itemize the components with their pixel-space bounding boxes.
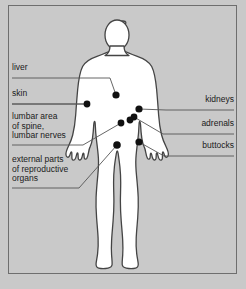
label-lumbar: lumbar area of spine, lumbar nerves <box>12 112 66 141</box>
label-liver: liver <box>12 63 28 73</box>
diagram-page: liver skin lumbar area of spine, lumbar … <box>0 0 246 289</box>
label-buttocks: buttocks <box>202 141 234 151</box>
liver-dot <box>112 91 119 98</box>
label-adrenals: adrenals <box>201 119 234 129</box>
lumbar-dot-a <box>127 117 134 124</box>
reproductive-dot <box>113 141 121 149</box>
label-reproductive: external parts of reproductive organs <box>12 155 68 184</box>
skin-dot <box>84 101 91 108</box>
buttocks-dot <box>135 138 142 145</box>
neck-icon <box>105 46 129 56</box>
lumbar-dot-b <box>118 120 125 127</box>
label-skin: skin <box>12 89 27 99</box>
label-kidneys: kidneys <box>205 95 234 105</box>
kidneys-dot <box>135 105 142 112</box>
